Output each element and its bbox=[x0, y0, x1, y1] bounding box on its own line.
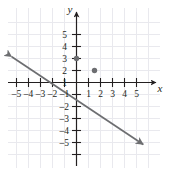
x-tick-label-5: 5 bbox=[134, 89, 139, 99]
y-tick-label-neg3: –3 bbox=[59, 114, 70, 124]
x-tick-label-4: 4 bbox=[122, 89, 127, 99]
plotted-point-second bbox=[92, 68, 97, 73]
plotted-point-y-intercept bbox=[74, 56, 79, 61]
y-tick-label-3: 3 bbox=[62, 54, 67, 64]
y-tick-label-2: 2 bbox=[62, 66, 67, 76]
x-tick-label-2: 2 bbox=[98, 89, 103, 99]
x-tick-label-1: 1 bbox=[86, 89, 91, 99]
y-tick-label-1: 1 bbox=[62, 78, 67, 88]
coordinate-plane-svg: y x –5 –4 –3 –2 –1 1 2 3 4 5 5 4 3 2 1 –… bbox=[0, 0, 169, 173]
y-tick-label-4: 4 bbox=[62, 42, 67, 52]
x-tick-label-3: 3 bbox=[110, 89, 115, 99]
y-axis-label: y bbox=[67, 3, 73, 15]
x-tick-label-neg5: –5 bbox=[11, 89, 22, 99]
x-axis-label: x bbox=[157, 82, 163, 94]
graph-figure: y x –5 –4 –3 –2 –1 1 2 3 4 5 5 4 3 2 1 –… bbox=[0, 0, 169, 173]
x-tick-label-neg1: –1 bbox=[59, 89, 70, 99]
y-tick-label-neg4: –4 bbox=[59, 126, 70, 136]
x-tick-label-neg2: –2 bbox=[47, 89, 58, 99]
y-tick-label-neg2: –2 bbox=[59, 102, 70, 112]
y-tick-label-5: 5 bbox=[62, 30, 67, 40]
y-tick-label-neg5: –5 bbox=[59, 138, 70, 148]
figure-background bbox=[0, 0, 169, 173]
x-tick-label-neg4: –4 bbox=[23, 89, 34, 99]
x-tick-label-neg3: –3 bbox=[35, 89, 46, 99]
